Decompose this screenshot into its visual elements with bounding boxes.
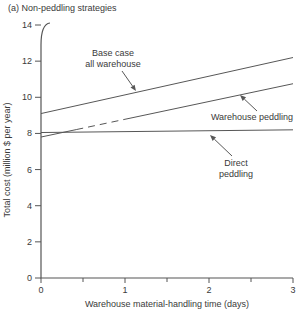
y-tick-label: 12 xyxy=(22,56,32,66)
y-tick-label: 14 xyxy=(22,20,32,30)
x-tick-label: 1 xyxy=(122,285,127,295)
annotation-arrowhead xyxy=(131,85,136,91)
y-tick-label: 2 xyxy=(27,237,32,247)
x-tick-label: 3 xyxy=(290,285,295,295)
annotation-text-direct-peddling: Directpeddling xyxy=(219,158,253,179)
series-line-warehouse-peddling xyxy=(41,130,76,137)
chart-title: (a) Non-peddling strategies xyxy=(8,3,117,13)
annotation-text-base-case-all-warehouse: Base caseall warehouse xyxy=(85,48,141,69)
series-line-direct-peddling xyxy=(41,130,293,133)
y-tick-label: 10 xyxy=(22,92,32,102)
x-tick-label: 0 xyxy=(38,285,43,295)
chart-canvas: (a) Non-peddling strategies Warehouse ma… xyxy=(0,0,296,314)
y-axis-label: Total cost (million $ per year) xyxy=(2,102,12,217)
x-axis-label: Warehouse material-handling time (days) xyxy=(85,299,249,309)
axes xyxy=(41,23,293,278)
chart-marks: 024681012140123Base caseall warehouseWar… xyxy=(22,20,296,295)
y-tick-label: 6 xyxy=(27,165,32,175)
series-line-base-case-all-warehouse xyxy=(41,58,293,114)
y-tick-label: 8 xyxy=(27,128,32,138)
series-line-warehouse-peddling xyxy=(76,119,125,129)
y-tick-label: 4 xyxy=(27,201,32,211)
annotation-arrow xyxy=(214,139,232,156)
x-tick-label: 2 xyxy=(206,285,211,295)
annotation-text-warehouse-peddling: Warehouse peddling xyxy=(211,112,293,122)
y-tick-label: 0 xyxy=(27,273,32,283)
chart-figure: (a) Non-peddling strategies Warehouse ma… xyxy=(0,0,296,314)
annotation-arrow xyxy=(244,99,257,111)
annotation-arrow xyxy=(122,71,133,86)
